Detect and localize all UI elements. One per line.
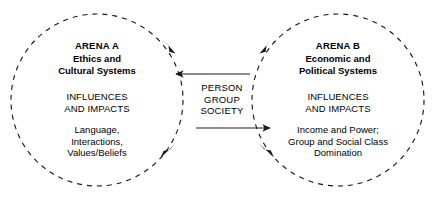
arena-b-influences-line-1: INFLUENCES <box>275 91 401 103</box>
arena-a-detail-item: Language, <box>37 124 157 136</box>
arena-a-title: ARENA A <box>37 40 157 52</box>
arena-b-subtitle: Economic and Political Systems <box>275 53 401 76</box>
arena-a-detail-item: Values/Beliefs <box>37 147 157 159</box>
arena-b-title: ARENA B <box>275 40 401 52</box>
diagram-text-layer: ARENA A Ethics and Cultural Systems INFL… <box>0 0 437 200</box>
center-label-line-society: SOCIETY <box>182 105 262 117</box>
arena-a-subtitle: Ethics and Cultural Systems <box>37 53 157 76</box>
arena-a-influences-line-1: INFLUENCES <box>37 91 157 103</box>
arena-a-influences-line-2: AND IMPACTS <box>37 103 157 115</box>
arena-b-influences: INFLUENCES AND IMPACTS <box>275 91 401 114</box>
arena-a-subtitle-line-2: Cultural Systems <box>37 65 157 77</box>
center-label-line-person: PERSON <box>182 82 262 94</box>
arena-a-subtitle-line-1: Ethics and <box>37 53 157 65</box>
arena-b-detail-item: Group and Social Class <box>268 136 408 148</box>
arena-b-subtitle-line-2: Political Systems <box>275 65 401 77</box>
arena-b-details: Income and Power; Group and Social Class… <box>268 124 408 159</box>
arena-b-detail-item: Income and Power; <box>268 124 408 136</box>
center-label-line-group: GROUP <box>182 94 262 106</box>
arena-b-subtitle-line-1: Economic and <box>275 53 401 65</box>
center-actor-label: PERSON GROUP SOCIETY <box>182 82 262 117</box>
arena-a-detail-item: Interactions, <box>37 136 157 148</box>
arena-a-influences: INFLUENCES AND IMPACTS <box>37 91 157 114</box>
arena-b-detail-item: Domination <box>268 147 408 159</box>
diagram-canvas: ARENA A Ethics and Cultural Systems INFL… <box>0 0 437 200</box>
arena-a-details: Language, Interactions, Values/Beliefs <box>37 124 157 159</box>
arena-b-influences-line-2: AND IMPACTS <box>275 103 401 115</box>
